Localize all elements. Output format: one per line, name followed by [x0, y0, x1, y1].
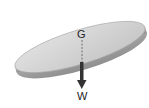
disc-diagram	[0, 0, 149, 108]
center-of-gravity-label: G	[77, 29, 86, 40]
weight-label: W	[77, 91, 87, 102]
